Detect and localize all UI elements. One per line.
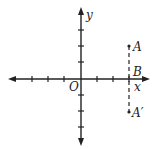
point-a-label: A xyxy=(132,40,142,54)
point-a-prime xyxy=(127,110,130,113)
origin-label: O xyxy=(69,80,79,94)
coordinate-plane: y x O A B A′ xyxy=(0,0,157,149)
y-axis-down-arrow-icon xyxy=(78,138,84,146)
y-axis xyxy=(78,7,84,146)
point-b-label: B xyxy=(132,65,142,79)
y-axis-up-arrow-icon xyxy=(78,7,84,15)
x-axis-right-arrow-icon xyxy=(142,76,150,82)
point-a-prime-label: A′ xyxy=(131,106,144,120)
x-axis-left-arrow-icon xyxy=(8,76,16,82)
y-axis-label: y xyxy=(85,8,93,22)
point-a xyxy=(127,44,130,47)
x-axis-label: x xyxy=(134,80,141,94)
